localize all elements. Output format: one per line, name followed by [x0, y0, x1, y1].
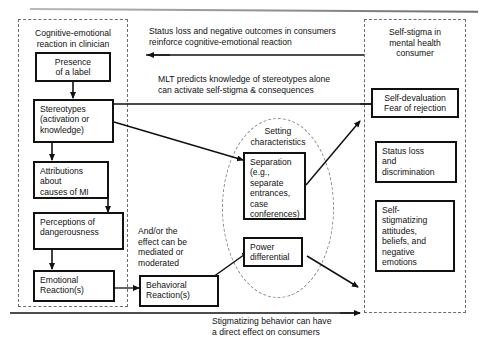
edge-stereotypes-to-separation: [114, 122, 243, 160]
annotation-mediation: And/or the effect can be mediated or mod…: [138, 226, 210, 268]
node-stereotypes[interactable]: Stereotypes (activation or knowledge): [33, 99, 114, 143]
diagram-canvas: Cognitive-emotional reaction in clinicia…: [0, 0, 479, 349]
node-presence-of-label[interactable]: Presence of a label: [35, 52, 111, 82]
annotation-direct-effect: Stigmatizing behavior can have a direct …: [212, 316, 392, 337]
node-self-devaluation[interactable]: Self-devaluation Fear of rejection: [371, 88, 459, 118]
node-power-differential[interactable]: Power differential: [243, 237, 303, 267]
annotation-feedback-top: Status loss and negative outcomes in con…: [149, 26, 374, 47]
region-consumer-title: Self-stigma in mental health consumer: [364, 27, 466, 59]
region-clinician-title: Cognitive-emotional reaction in clinicia…: [18, 28, 128, 49]
node-separation[interactable]: Separation (e.g., separate entrances, ca…: [243, 152, 306, 220]
node-status-loss[interactable]: Status loss and discrimination: [375, 141, 457, 183]
region-setting-title: Setting characteristics: [232, 126, 324, 147]
scan-artifact-line: [30, 8, 478, 13]
node-emotional-reactions[interactable]: Emotional Reaction(s): [33, 270, 115, 302]
node-attributions[interactable]: Attributions about causes of MI: [33, 161, 109, 199]
node-self-stigmatizing[interactable]: Self- stigmatizing attitudes, beliefs, a…: [375, 200, 455, 272]
node-behavioral-reactions[interactable]: Behavioral Reaction(s): [139, 275, 219, 307]
node-perceptions[interactable]: Perceptions of dangerousness: [33, 212, 124, 250]
annotation-mlt: MLT predicts knowledge of stereotypes al…: [158, 74, 368, 95]
edge-stereotypes-to-selfdevaluation: [114, 104, 385, 113]
